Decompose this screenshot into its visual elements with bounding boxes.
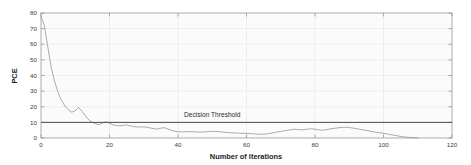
y-tick-label: 20 [30, 103, 37, 110]
x-tick-label: 60 [243, 141, 250, 148]
pce-iterations-line-chart: Decision Threshold 01020304050607080 020… [0, 0, 471, 165]
x-tick-label: 120 [447, 141, 458, 148]
chart-figure: Decision Threshold 01020304050607080 020… [0, 0, 471, 165]
y-tick-label: 80 [30, 9, 37, 16]
y-tick-label: 60 [30, 40, 37, 47]
y-tick-label: 30 [30, 87, 37, 94]
y-tick-label: 70 [30, 25, 37, 32]
x-tick-label: 40 [175, 141, 182, 148]
annotation-layer: Decision Threshold [184, 111, 241, 118]
y-axis-title: PCE [10, 68, 19, 83]
y-tick-label: 10 [30, 119, 37, 126]
x-axis-title: Number of Iterations [210, 152, 282, 161]
y-axis-tick-labels: 01020304050607080 [30, 9, 37, 141]
x-tick-label: 20 [106, 141, 113, 148]
y-tick-label: 0 [34, 134, 38, 141]
chart-annotation: Decision Threshold [184, 111, 241, 118]
x-axis-tick-labels: 020406080100120 [39, 141, 457, 148]
x-tick-label: 100 [378, 141, 389, 148]
y-tick-label: 50 [30, 56, 37, 63]
y-tick-label: 40 [30, 72, 37, 79]
x-tick-label: 0 [39, 141, 43, 148]
x-tick-label: 80 [312, 141, 319, 148]
